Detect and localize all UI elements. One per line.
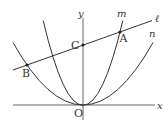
label-o: O <box>74 107 83 120</box>
parabola-diagram: A B C O x y m n ℓ <box>0 0 168 124</box>
label-y: y <box>77 8 84 19</box>
label-x: x <box>157 100 163 111</box>
point-c <box>81 43 84 46</box>
label-a: A <box>119 32 129 45</box>
label-n: n <box>149 28 155 39</box>
label-b: B <box>22 67 30 80</box>
label-l: ℓ <box>155 13 159 24</box>
label-c: C <box>71 39 79 52</box>
label-m: m <box>117 8 126 19</box>
